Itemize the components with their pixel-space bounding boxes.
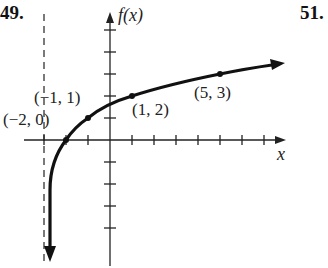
y-axis [104, 12, 116, 266]
point-5-3 [217, 71, 223, 77]
y-axis-label: f(x) [118, 5, 143, 26]
point-1-2 [129, 93, 135, 99]
function-curve [50, 65, 272, 252]
x-axis-label: x [277, 144, 285, 165]
graph [0, 0, 328, 268]
point-label-neg2-0: (−2, 0) [3, 110, 49, 130]
point-label-5-3: (5, 3) [194, 83, 231, 103]
curve-arrow-down [44, 246, 56, 262]
point-label-neg1-1: (−1, 1) [34, 88, 80, 108]
point-label-1-2: (1, 2) [132, 100, 169, 120]
point-neg1-1 [85, 115, 91, 121]
point-neg2-0 [63, 137, 69, 143]
curve-arrow-up [270, 59, 285, 70]
